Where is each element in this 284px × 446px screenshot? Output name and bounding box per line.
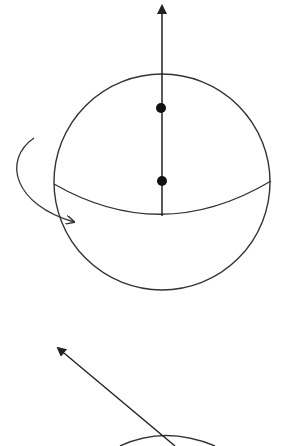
partial-sphere-outline: [120, 436, 215, 446]
rotation-direction-arrow: [17, 138, 74, 222]
diagram-canvas: [0, 0, 284, 446]
lower-dot: [157, 176, 167, 186]
tilted-axis-arrow: [58, 348, 175, 446]
sphere-panel-top: [17, 6, 271, 290]
sphere-panel-bottom: [58, 348, 215, 446]
upper-dot: [156, 103, 166, 113]
